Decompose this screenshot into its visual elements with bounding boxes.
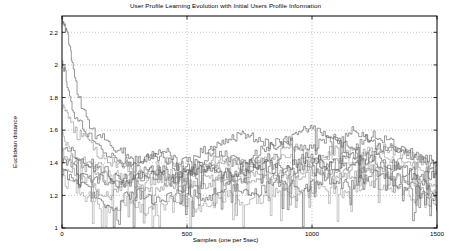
y-axis-label: Euclidean distance xyxy=(11,116,18,168)
plot-area: 11.21.41.61.822.2050010001500 xyxy=(0,0,451,251)
axis-ticks: 11.21.41.61.822.2050010001500 xyxy=(49,16,444,237)
y-tick-label: 1 xyxy=(55,224,59,231)
x-axis-label: Samples (one per 5sec) xyxy=(0,236,451,243)
y-tick-label: 1.4 xyxy=(49,159,58,166)
chart-figure: User Profile Learning Evolution with Ini… xyxy=(0,0,451,251)
y-tick-label: 2 xyxy=(55,61,59,68)
axes-frame xyxy=(62,16,437,228)
grid-lines xyxy=(62,16,437,228)
y-tick-label: 1.2 xyxy=(49,192,58,199)
data-series xyxy=(62,18,437,228)
y-tick-label: 1.8 xyxy=(49,94,58,101)
y-tick-label: 2.2 xyxy=(49,29,58,36)
y-tick-label: 1.6 xyxy=(49,126,58,133)
series-line-7 xyxy=(62,169,437,227)
